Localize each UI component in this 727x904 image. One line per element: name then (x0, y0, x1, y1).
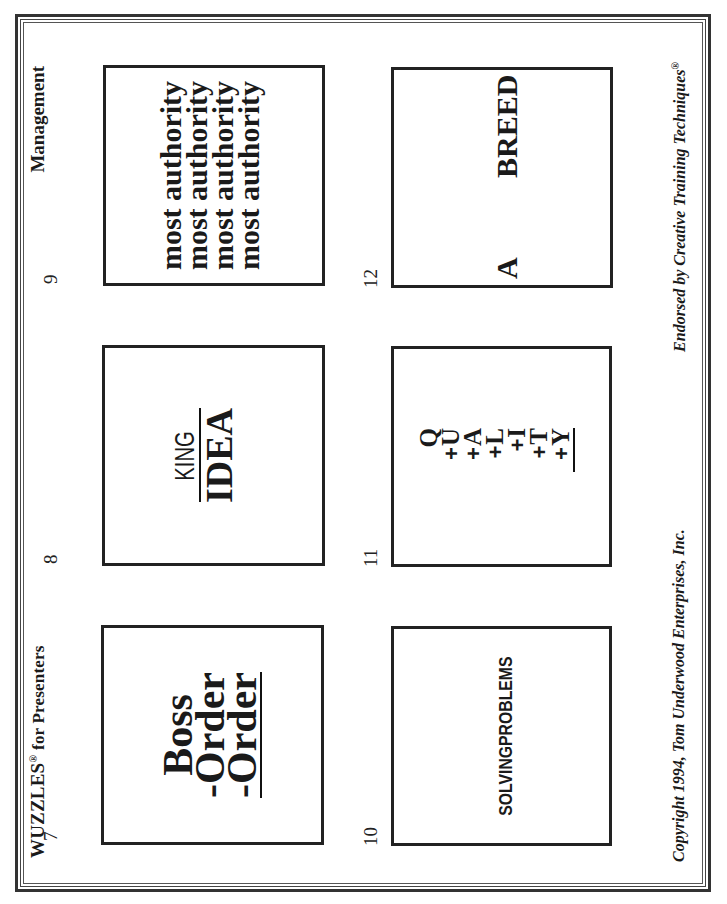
puzzle-7-line-3: -Order (226, 672, 262, 798)
endorsement-notice: Endorsed by Creative Training Techniques… (670, 62, 689, 352)
puzzle-number-8: 8 (40, 555, 62, 565)
puzzle-12-left-text: A (490, 257, 524, 279)
endorsement-text: Endorsed by Creative Training Techniques (671, 69, 688, 351)
puzzle-box-7: Boss -Order -Order (101, 625, 324, 845)
title-brand: WUZZLES (27, 763, 48, 858)
puzzle-box-9: most authority most authority most autho… (103, 65, 325, 286)
puzzle-number-11: 11 (360, 549, 382, 567)
copyright-notice: Copyright 1994, Tom Underwood Enterprise… (670, 529, 688, 862)
puzzle-number-7: 7 (40, 832, 62, 842)
puzzle-7-content: Boss -Order -Order (162, 628, 262, 842)
puzzle-11-row: +Y (550, 428, 575, 472)
puzzle-box-12: A BREED (391, 67, 613, 288)
page-title: WUZZLES® for Presenters (27, 645, 49, 858)
category-label: Management (27, 66, 49, 173)
puzzle-10-text: SOLVINGPROBLEMS (495, 656, 517, 815)
puzzle-8-denominator: IDEA (201, 348, 237, 563)
puzzle-box-8: KING IDEA (102, 345, 325, 566)
puzzle-8-content: KING IDEA (171, 348, 237, 563)
puzzle-8-numerator: KING (171, 431, 199, 481)
puzzle-12-right-text: BREED (490, 75, 524, 178)
puzzle-box-11: Q +U +A +L +I +T +Y (391, 346, 612, 567)
puzzle-number-10: 10 (360, 827, 382, 846)
registered-mark: ® (28, 755, 39, 763)
wuzzles-page: WUZZLES® for Presenters Management 7 Bos… (0, 0, 727, 904)
title-subtitle: for Presenters (29, 645, 48, 750)
puzzle-9-content: most authority most authority most autho… (158, 68, 262, 283)
registered-mark: ® (670, 62, 681, 69)
puzzle-11-content: Q +U +A +L +I +T +Y (418, 428, 575, 472)
puzzle-box-10: SOLVINGPROBLEMS (391, 626, 612, 846)
puzzle-9-line-4: most authority (236, 68, 262, 283)
puzzle-number-12: 12 (360, 269, 382, 288)
puzzle-10-content: SOLVINGPROBLEMS (495, 629, 517, 843)
puzzle-number-9: 9 (40, 275, 62, 285)
